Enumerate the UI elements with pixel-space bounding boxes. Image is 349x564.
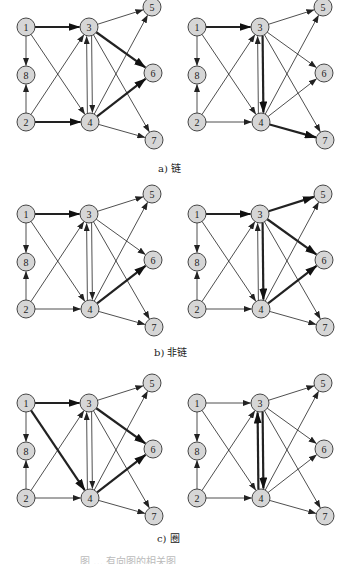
node-4: 4: [252, 300, 270, 318]
node-8: 8: [17, 442, 35, 460]
graph-panel-c-left: 13586247: [17, 374, 163, 525]
graph-panel-b-left: 13586247: [17, 185, 163, 336]
node-1: 1: [17, 205, 35, 223]
node-label: 6: [151, 68, 156, 79]
node-1: 1: [188, 18, 206, 36]
edge-4-to-3: [258, 224, 259, 301]
node-7: 7: [316, 131, 334, 149]
edge-4-to-5: [265, 15, 318, 114]
node-6: 6: [144, 64, 162, 82]
node-label: 2: [24, 304, 29, 315]
directed-graph-figure: 1358624713586247135862471358624713586247…: [0, 0, 349, 564]
node-7: 7: [316, 507, 334, 525]
node-1: 1: [17, 18, 35, 36]
node-label: 1: [195, 398, 200, 409]
edge-3-to-5: [269, 10, 314, 24]
node-2: 2: [188, 489, 206, 507]
node-label: 2: [24, 493, 29, 504]
node-label: 6: [151, 444, 156, 455]
node-label: 6: [151, 255, 156, 266]
node-label: 7: [152, 322, 157, 333]
graph-panel-a-right: 13586247: [188, 0, 334, 149]
node-label: 2: [24, 117, 29, 128]
edge-4-to-7: [99, 311, 145, 324]
node-3: 3: [80, 18, 98, 36]
node-label: 4: [88, 493, 93, 504]
edge-3-to-4-highlighted: [263, 36, 264, 113]
edge-4-to-6-highlighted: [97, 79, 145, 117]
edge-3-to-6-highlighted: [96, 32, 145, 67]
edge-3-to-6-highlighted: [267, 219, 316, 254]
node-label: 5: [321, 189, 326, 200]
edge-3-to-5: [98, 197, 143, 211]
node-label: 5: [150, 378, 155, 389]
node-5: 5: [314, 0, 332, 16]
node-label: 8: [24, 257, 29, 268]
node-label: 1: [24, 398, 29, 409]
node-6: 6: [144, 251, 162, 269]
edge-4-to-6: [268, 455, 316, 493]
node-label: 3: [87, 22, 92, 33]
node-5: 5: [143, 185, 161, 203]
node-label: 3: [258, 22, 263, 33]
edge-3-to-4: [92, 412, 93, 489]
edge-4-to-6-highlighted: [97, 455, 145, 493]
node-label: 5: [150, 189, 155, 200]
node-8: 8: [17, 66, 35, 84]
node-label: 4: [88, 117, 93, 128]
caption-a-chain: a) 链: [158, 160, 181, 175]
node-6: 6: [315, 251, 333, 269]
node-label: 8: [195, 257, 200, 268]
edge-3-to-5-highlighted: [269, 197, 314, 211]
node-1: 1: [17, 394, 35, 412]
edge-3-to-6-highlighted: [96, 408, 145, 443]
edge-3-to-6: [267, 408, 316, 443]
node-3: 3: [80, 394, 98, 412]
node-6: 6: [315, 440, 333, 458]
node-label: 3: [87, 398, 92, 409]
node-label: 7: [323, 322, 328, 333]
edge-4-to-6-highlighted: [268, 266, 316, 304]
node-5: 5: [143, 374, 161, 392]
node-label: 8: [195, 70, 200, 81]
node-label: 5: [321, 2, 326, 13]
node-label: 4: [259, 117, 264, 128]
edge-3-to-4: [92, 36, 93, 113]
edge-3-to-6: [267, 32, 316, 67]
node-5: 5: [314, 185, 332, 203]
edge-3-to-6: [96, 219, 145, 254]
node-3: 3: [251, 18, 269, 36]
node-label: 3: [87, 209, 92, 220]
node-label: 8: [24, 446, 29, 457]
node-4: 4: [81, 113, 99, 131]
node-3: 3: [251, 394, 269, 412]
edge-2-to-3: [202, 222, 255, 302]
node-1: 1: [188, 394, 206, 412]
node-7: 7: [145, 131, 163, 149]
edge-3-to-5: [98, 386, 143, 400]
figure-footer-partial: 图 … 有向图的相关图: [80, 553, 280, 564]
node-5: 5: [143, 0, 161, 16]
node-label: 4: [259, 493, 264, 504]
graph-panel-a-left: 13586247: [17, 0, 163, 149]
node-3: 3: [80, 205, 98, 223]
node-label: 2: [195, 493, 200, 504]
edge-3-to-5: [269, 386, 314, 400]
edge-2-to-3: [202, 35, 255, 115]
node-label: 6: [322, 444, 327, 455]
node-label: 3: [258, 209, 263, 220]
node-8: 8: [188, 66, 206, 84]
edge-4-to-7: [270, 500, 316, 513]
node-8: 8: [188, 442, 206, 460]
node-label: 6: [322, 68, 327, 79]
edge-3-to-5: [98, 10, 143, 24]
edge-4-to-6-highlighted: [97, 266, 145, 304]
node-label: 5: [150, 2, 155, 13]
node-label: 7: [152, 135, 157, 146]
edge-4-to-7: [99, 500, 145, 513]
node-2: 2: [17, 300, 35, 318]
edge-4-to-7-highlighted: [270, 124, 316, 137]
graph-panel-c-right: 13586247: [188, 374, 334, 525]
edge-3-to-7: [264, 35, 320, 132]
edge-3-to-4-highlighted: [263, 223, 264, 300]
